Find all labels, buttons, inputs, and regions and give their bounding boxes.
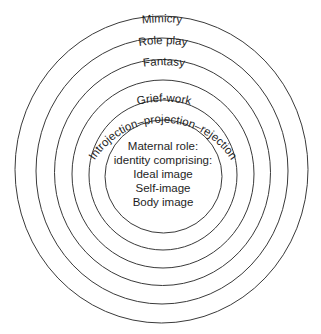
core-label: Maternal role: identity comprising: Idea… <box>103 139 223 209</box>
core-line-identity: identity comprising: <box>103 153 223 167</box>
core-line-body-image: Body image <box>103 195 223 209</box>
core-line-ideal-image: Ideal image <box>103 167 223 181</box>
label-grief-work: Grief-work <box>136 92 193 107</box>
core-line-maternal-role: Maternal role: <box>103 139 223 153</box>
label-role-play: Role play <box>138 34 189 48</box>
core-line-self-image: Self-image <box>103 181 223 195</box>
label-fantasy: Fantasy <box>142 55 186 69</box>
label-mimicry: Mimicry <box>141 12 183 25</box>
